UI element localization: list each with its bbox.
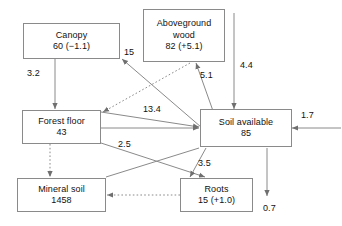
- node-canopy-value: 60 (−1.1): [53, 41, 90, 53]
- flow-label-canopy-to-floor: 3.2: [27, 68, 40, 78]
- node-soil-available[interactable]: Soil available 85: [200, 109, 292, 147]
- node-canopy[interactable]: Canopy 60 (−1.1): [23, 23, 120, 59]
- node-aboveground-wood[interactable]: Aboveground wood 82 (+5.1): [143, 9, 225, 62]
- flow-label-external-to-soil: 4.4: [240, 60, 253, 70]
- node-soil-available-label: Soil available: [219, 117, 273, 129]
- arrow-floor-to-roots: [101, 143, 205, 177]
- flow-label-soil-to-canopy: 15: [124, 47, 134, 57]
- arrow-soil-to-mineral-spur: [106, 148, 199, 177]
- node-roots-value: 15 (+1.0): [198, 195, 235, 207]
- node-soil-available-value: 85: [241, 128, 251, 140]
- flow-label-floor-to-roots: 2.5: [118, 139, 131, 149]
- node-aboveground-wood-label2: wood: [173, 30, 195, 42]
- flow-label-floor-to-soil: 13.4: [143, 104, 161, 114]
- node-roots[interactable]: Roots 15 (+1.0): [180, 178, 253, 212]
- node-mineral-soil-value: 1458: [51, 195, 71, 207]
- flow-label-soil-outflow: 0.7: [263, 203, 276, 213]
- node-forest-floor-label: Forest floor: [38, 116, 85, 128]
- node-mineral-soil[interactable]: Mineral soil 1458: [17, 178, 106, 212]
- node-forest-floor-value: 43: [56, 127, 66, 139]
- flow-label-soil-to-roots: 3.5: [198, 158, 211, 168]
- node-forest-floor[interactable]: Forest floor 43: [22, 110, 101, 144]
- node-mineral-soil-label: Mineral soil: [38, 184, 85, 196]
- flow-label-soil-to-wood: 5.1: [200, 70, 213, 80]
- flow-label-right-to-soil: 1.7: [301, 110, 314, 120]
- node-canopy-label: Canopy: [56, 30, 88, 42]
- node-aboveground-wood-value: 82 (+5.1): [165, 41, 202, 53]
- node-aboveground-wood-label: Aboveground: [157, 18, 212, 30]
- arrow-floor-to-soil-diagonal: [101, 112, 199, 127]
- diagram-canvas: Canopy 60 (−1.1) Aboveground wood 82 (+5…: [0, 0, 342, 226]
- node-roots-label: Roots: [204, 184, 228, 196]
